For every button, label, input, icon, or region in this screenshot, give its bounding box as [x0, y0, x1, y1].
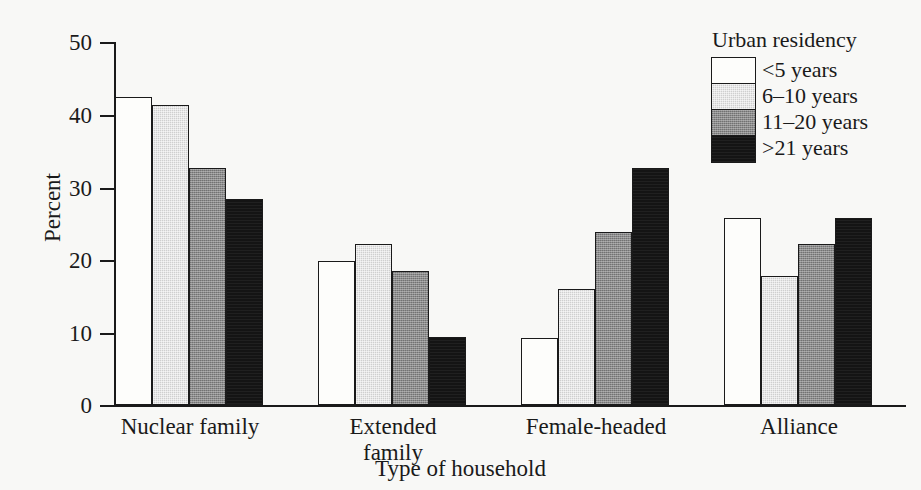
- bar-nuclear-family-6to10: [152, 105, 189, 405]
- bar-group-female-headed: [521, 42, 671, 405]
- bar-alliance-11to20: [798, 244, 835, 405]
- legend-swatch-column: [711, 57, 756, 163]
- bar-group-extended-family: [318, 42, 468, 405]
- x-axis-line: [106, 405, 906, 407]
- x-category-label-female-headed: Female-headed: [521, 414, 671, 440]
- legend: Urban residency <5 years 6–10 years 11–2…: [700, 28, 915, 165]
- bar-female-headed-11to20: [595, 232, 632, 405]
- legend-swatch-11to20: [712, 110, 755, 136]
- x-category-label-nuclear-family: Nuclear family: [115, 414, 265, 440]
- legend-label-lt5: <5 years: [762, 57, 868, 83]
- bar-female-headed-lt5: [521, 338, 558, 405]
- bar-nuclear-family-gt21: [226, 199, 263, 405]
- bar-group-nuclear-family: [115, 42, 265, 405]
- y-axis-title: Percent: [41, 148, 64, 268]
- bar-extended-family-11to20: [392, 271, 429, 405]
- bar-extended-family-6to10: [355, 244, 392, 405]
- legend-label-6to10: 6–10 years: [762, 83, 868, 109]
- bar-nuclear-family-11to20: [189, 168, 226, 405]
- bar-alliance-gt21: [835, 218, 872, 405]
- legend-swatch-gt21: [712, 136, 755, 162]
- legend-swatch-6to10: [712, 84, 755, 110]
- bar-extended-family-gt21: [429, 337, 466, 405]
- x-category-label-alliance: Alliance: [724, 414, 874, 440]
- legend-swatch-lt5: [712, 58, 755, 84]
- y-tick-label-50: 50: [48, 31, 92, 54]
- bar-female-headed-6to10: [558, 289, 595, 405]
- y-tick-label-0: 0: [48, 394, 92, 417]
- y-tick-mark-40: [100, 115, 114, 117]
- legend-label-gt21: >21 years: [762, 135, 868, 161]
- y-tick-mark-20: [100, 260, 114, 262]
- legend-label-11to20: 11–20 years: [762, 109, 868, 135]
- legend-body: <5 years 6–10 years 11–20 years >21 year…: [700, 57, 915, 165]
- y-tick-mark-10: [100, 333, 114, 335]
- x-axis-title: Type of household: [0, 456, 921, 482]
- bar-alliance-6to10: [761, 276, 798, 405]
- legend-title: Urban residency: [712, 28, 915, 52]
- y-tick-mark-50: [100, 42, 114, 44]
- bar-alliance-lt5: [724, 218, 761, 405]
- y-tick-mark-30: [100, 188, 114, 190]
- y-tick-label-40: 40: [48, 104, 92, 127]
- bar-nuclear-family-lt5: [115, 97, 152, 405]
- y-tick-label-10: 10: [48, 322, 92, 345]
- bar-female-headed-gt21: [632, 168, 669, 405]
- chart-figure: 50 40 30 20 10 0 Percent: [0, 0, 921, 490]
- legend-label-column: <5 years 6–10 years 11–20 years >21 year…: [762, 57, 868, 161]
- bar-extended-family-lt5: [318, 261, 355, 405]
